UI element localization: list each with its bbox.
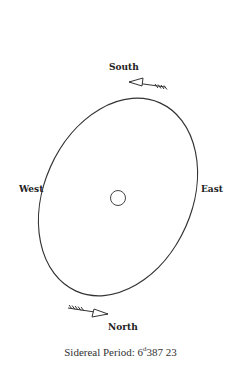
south-arrow-icon [129, 78, 167, 90]
sidereal-period-caption: Sidereal Period: 6d387 23 [0, 345, 241, 358]
caption-fraction: 387 23 [147, 346, 177, 358]
east-label: East [201, 184, 223, 194]
caption-prefix: Sidereal Period: [64, 346, 135, 358]
central-body-circle [111, 191, 126, 206]
orbit-ellipse [9, 73, 228, 321]
west-label: West [19, 184, 43, 194]
orbit-diagram: South West East North Sidereal Period: 6… [0, 0, 241, 371]
north-label: North [108, 322, 138, 332]
north-arrow-icon [68, 305, 108, 317]
south-label: South [109, 62, 139, 72]
